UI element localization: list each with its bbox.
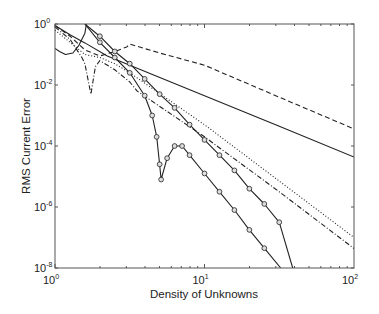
data-marker xyxy=(217,153,222,158)
data-marker xyxy=(159,177,164,182)
x-axis-label: Density of Unknowns xyxy=(150,288,258,300)
data-marker xyxy=(157,162,162,167)
data-marker xyxy=(112,49,117,54)
data-marker xyxy=(232,168,237,173)
series-circle-markers-lower xyxy=(85,24,281,268)
data-marker xyxy=(172,144,177,149)
data-marker xyxy=(202,138,207,143)
y-tick-label: 10-2 xyxy=(34,78,53,91)
axis-tick-labels: 10010110210010-210-410-610-8 xyxy=(34,17,358,286)
data-marker xyxy=(247,227,252,232)
data-marker xyxy=(262,246,267,251)
data-marker xyxy=(172,105,177,110)
data-marker xyxy=(142,93,147,98)
data-marker xyxy=(127,70,132,75)
data-marker xyxy=(97,40,102,45)
data-marker xyxy=(247,186,252,191)
data-marker xyxy=(165,156,170,161)
data-marker xyxy=(277,220,282,225)
data-marker xyxy=(157,92,162,97)
data-marker xyxy=(262,202,267,207)
data-marker xyxy=(202,171,207,176)
y-tick-label: 10-4 xyxy=(34,139,53,152)
y-tick-label: 100 xyxy=(34,17,50,30)
data-marker xyxy=(150,113,155,118)
data-marker xyxy=(217,189,222,194)
data-marker xyxy=(97,34,102,39)
data-marker xyxy=(232,208,237,213)
plot-lines xyxy=(55,24,354,268)
x-tick-label: 101 xyxy=(192,273,208,286)
data-marker xyxy=(154,134,159,139)
data-marker xyxy=(142,77,147,82)
data-marker xyxy=(112,55,117,60)
x-tick-label: 100 xyxy=(43,273,59,286)
data-marker xyxy=(187,122,192,127)
data-marker xyxy=(187,153,192,158)
data-marker xyxy=(180,144,185,149)
y-axis-label: RMS Current Error xyxy=(20,98,32,194)
y-tick-label: 10-8 xyxy=(34,261,53,274)
y-tick-label: 10-6 xyxy=(34,200,53,213)
data-marker xyxy=(127,61,132,66)
chart: 10010110210010-210-410-610-8 Density of … xyxy=(0,0,379,314)
x-tick-label: 102 xyxy=(342,273,358,286)
